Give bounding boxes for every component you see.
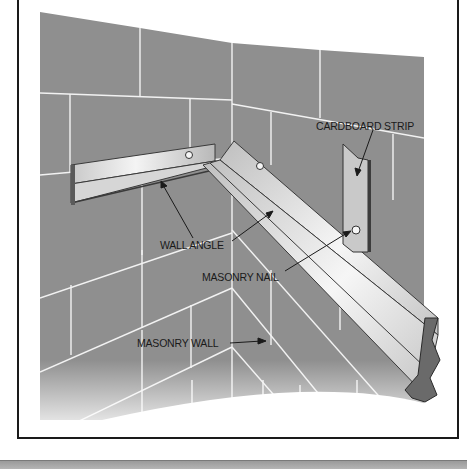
bottom-bar — [0, 460, 467, 469]
label-masonry-nail: MASONRY NAIL — [202, 271, 279, 283]
label-cardboard-strip: CARDBOARD STRIP — [316, 120, 414, 132]
label-masonry-wall: MASONRY WALL — [137, 337, 219, 349]
label-wall-angle: WALL ANGLE — [160, 239, 224, 251]
